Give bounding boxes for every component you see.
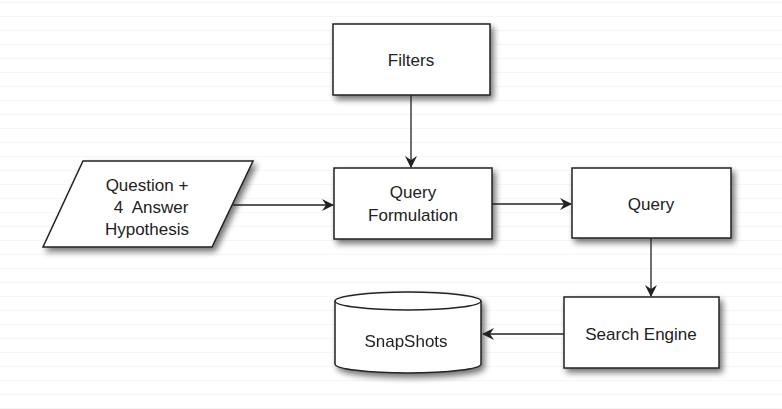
node-query: Query <box>572 168 731 238</box>
node-query-label: Query <box>628 195 675 214</box>
node-search-engine-label: Search Engine <box>585 325 697 344</box>
node-filters-label: Filters <box>388 51 434 70</box>
flowchart-canvas: Filters Question + 4 Answer Hypothesis Q… <box>0 0 782 409</box>
node-query-formulation-line-2: Formulation <box>368 206 458 225</box>
node-search-engine: Search Engine <box>564 297 719 368</box>
node-query-formulation-line-1: Query <box>390 183 437 202</box>
node-input: Question + 4 Answer Hypothesis <box>43 161 253 247</box>
node-snapshots: SnapShots <box>335 292 481 373</box>
node-query-formulation: Query Formulation <box>334 168 492 239</box>
node-snapshots-label: SnapShots <box>364 332 447 351</box>
node-input-line-2: 4 Answer <box>114 198 189 217</box>
node-filters: Filters <box>333 24 490 95</box>
node-input-line-3: Hypothesis <box>105 220 189 239</box>
node-input-line-1: Question + <box>106 176 189 195</box>
